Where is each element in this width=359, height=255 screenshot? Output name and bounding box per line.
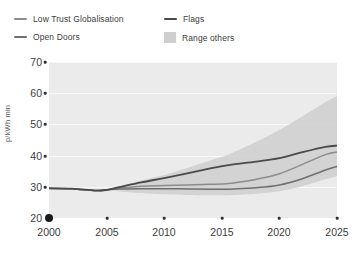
x-tick-dot [278,217,281,220]
x-tick-dot [336,217,339,220]
x-tick-dot [106,217,109,220]
x-tick-label: 2020 [267,226,290,238]
x-tick-label: 2005 [95,226,118,238]
x-axis: 2000 2005 2010 2015 2020 2025 [0,0,359,255]
x-tick-label: 2000 [37,226,60,238]
x-tick-label: 2010 [152,226,175,238]
origin-marker-dot [45,214,53,222]
x-tick-label: 2015 [210,226,233,238]
x-tick-dot [163,217,166,220]
x-tick-label: 2025 [325,226,348,238]
chart-container: Low Trust Globalisation Open Doors Flags… [0,0,359,255]
x-tick-dot [221,217,224,220]
